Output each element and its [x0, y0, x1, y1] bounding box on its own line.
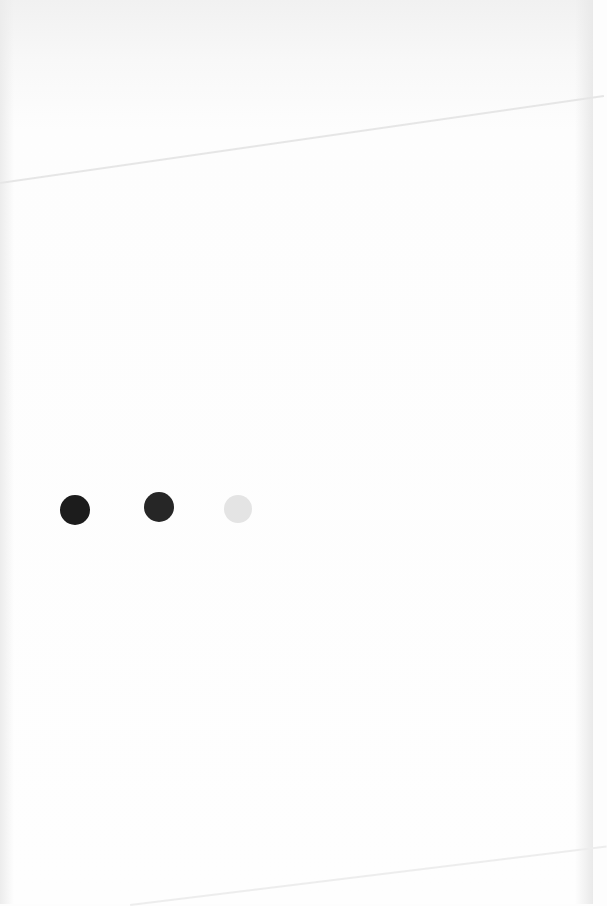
black-dot-2: [144, 492, 174, 522]
paper-shadow-right: [575, 0, 593, 904]
light-gray-dot: [224, 495, 252, 523]
paper-shadow-left: [0, 0, 14, 904]
black-dot-1: [60, 495, 90, 525]
